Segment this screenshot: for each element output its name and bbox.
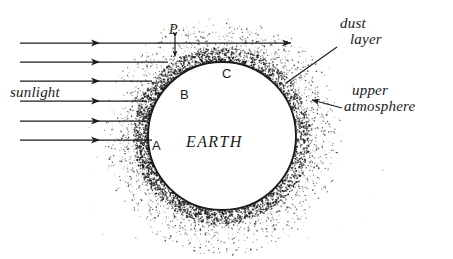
label-point-a: A xyxy=(152,138,161,153)
label-point-c: C xyxy=(222,66,231,81)
diagram-canvas: sunlight EARTH dust layer upper atmosphe… xyxy=(0,0,453,259)
label-point-p: P xyxy=(168,22,178,37)
label-upper-atmosphere-line1: upper xyxy=(352,82,388,98)
diagram-earth-dust-layer: sunlight EARTH dust layer upper atmosphe… xyxy=(0,0,453,259)
label-upper-atmosphere-line2: atmosphere xyxy=(344,98,416,114)
label-dust-layer-line1: dust xyxy=(340,15,366,31)
label-dust-layer-line2: layer xyxy=(350,31,382,47)
upper-atmosphere-arrow xyxy=(312,100,342,108)
label-earth: EARTH xyxy=(185,133,243,150)
label-point-b: B xyxy=(180,87,189,102)
label-sunlight: sunlight xyxy=(10,84,61,100)
